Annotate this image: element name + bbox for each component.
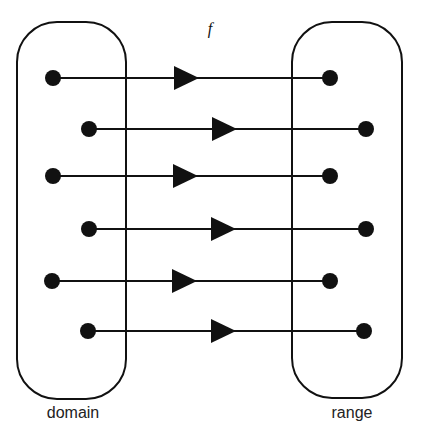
function-label: f [208, 20, 215, 38]
domain-element-3 [45, 168, 61, 184]
range-element-1 [322, 70, 338, 86]
range-element-6 [356, 323, 372, 339]
arrowhead-icon [211, 319, 236, 343]
mapping-arrow-5 [44, 269, 338, 293]
domain-element-1 [45, 70, 61, 86]
domain-element-2 [81, 121, 97, 137]
range-element-3 [322, 168, 338, 184]
range-element-4 [358, 221, 374, 237]
mapping-arrow-6 [80, 319, 372, 343]
mapping-arrow-1 [45, 66, 338, 90]
arrowhead-icon [212, 117, 237, 141]
range-element-5 [322, 273, 338, 289]
domain-element-4 [81, 221, 97, 237]
arrowhead-icon [211, 217, 236, 241]
arrowhead-icon [174, 66, 199, 90]
domain-element-5 [44, 273, 60, 289]
function-mapping-diagram: f domain ran [0, 0, 425, 438]
arrowhead-icon [173, 164, 198, 188]
range-label: range [332, 404, 373, 421]
domain-label: domain [47, 404, 99, 421]
domain-element-6 [80, 323, 96, 339]
arrowhead-icon [172, 269, 197, 293]
mapping-arrow-3 [45, 164, 338, 188]
range-element-2 [358, 121, 374, 137]
mapping-arrow-2 [81, 117, 374, 141]
mapping-arrow-4 [81, 217, 374, 241]
